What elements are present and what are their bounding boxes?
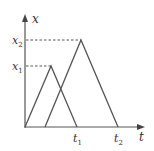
y-axis-arrow-icon — [22, 14, 28, 22]
triangle-2 — [45, 40, 118, 127]
x1-label: x1 — [12, 60, 23, 75]
t1-label: t1 — [73, 132, 82, 147]
triangle-1 — [25, 66, 77, 127]
x2-label: x2 — [12, 34, 23, 49]
y-axis-label: x — [32, 12, 39, 26]
t2-label: t2 — [114, 132, 123, 147]
x-axis-label: t — [139, 130, 144, 144]
diagram-canvas: x t x2 x1 t1 t2 — [0, 0, 154, 151]
